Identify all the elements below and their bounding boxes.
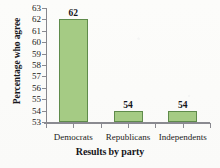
plot-area: 6362616059585756555453 625454 DemocratsR… — [46, 8, 210, 122]
x-category-label: Democrats — [54, 132, 93, 142]
bar-value-label: 54 — [123, 100, 133, 110]
y-tick-label: 54 — [32, 106, 41, 116]
y-tick-label: 63 — [32, 3, 41, 13]
x-tick-mark — [155, 123, 156, 128]
bar-value-label: 62 — [69, 8, 79, 18]
bar: 54 — [168, 111, 197, 122]
y-tick-label: 57 — [32, 71, 41, 81]
bar-chart-figure: Percentage who agree 6362616059585756555… — [0, 0, 220, 168]
y-axis-title: Percentage who agree — [12, 6, 22, 116]
x-tick-mark-center — [73, 123, 74, 128]
y-tick-mark — [42, 76, 46, 77]
y-tick-label: 55 — [32, 94, 41, 104]
y-tick-mark — [42, 42, 46, 43]
y-tick-label: 58 — [32, 60, 41, 70]
y-tick-label: 59 — [32, 49, 41, 59]
y-tick-label: 60 — [32, 37, 41, 47]
y-tick-mark — [42, 88, 46, 89]
x-tick-mark-center — [128, 123, 129, 128]
x-tick-mark-center — [183, 123, 184, 128]
y-tick-label: 53 — [32, 117, 41, 127]
y-tick-label: 56 — [32, 83, 41, 93]
y-axis-line — [46, 8, 47, 123]
y-tick-mark — [42, 31, 46, 32]
x-category-label: Republicans — [106, 132, 151, 142]
x-axis-title: Results by party — [0, 146, 220, 157]
y-tick-mark — [42, 65, 46, 66]
bar: 54 — [114, 111, 143, 122]
bar-value-label: 54 — [178, 100, 188, 110]
y-tick-mark — [42, 19, 46, 20]
bar: 62 — [59, 19, 88, 122]
y-tick-mark — [42, 54, 46, 55]
x-tick-mark — [101, 123, 102, 128]
x-axis-line — [44, 122, 210, 124]
y-tick-label: 61 — [32, 26, 41, 36]
y-tick-mark — [42, 111, 46, 112]
x-tick-mark — [46, 123, 47, 128]
y-tick-mark — [42, 8, 46, 9]
y-tick-mark — [42, 99, 46, 100]
x-category-label: Independents — [159, 132, 207, 142]
y-tick-label: 62 — [32, 14, 41, 24]
x-tick-mark — [210, 123, 211, 128]
